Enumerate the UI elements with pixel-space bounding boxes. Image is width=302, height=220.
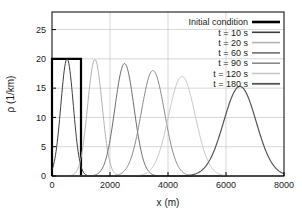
plot-canvas: 02000400060008000 0510152025 x (m) ρ (1/… — [0, 0, 302, 220]
x-tick-label: 8000 — [274, 180, 294, 190]
y-tick-label: 5 — [41, 142, 46, 152]
legend-label-3: t = 60 s — [218, 48, 248, 58]
x-tick-label: 0 — [49, 180, 54, 190]
legend-label-1: t = 10 s — [218, 28, 248, 38]
legend-label-5: t = 120 s — [213, 69, 248, 79]
y-tick-label: 15 — [36, 83, 46, 93]
x-tick-label: 4000 — [158, 180, 178, 190]
x-tick-label: 6000 — [216, 180, 236, 190]
legend-label-2: t = 20 s — [218, 38, 248, 48]
legend-label-4: t = 90 s — [218, 58, 248, 68]
x-tick-label: 2000 — [100, 180, 120, 190]
chart-figure: 02000400060008000 0510152025 x (m) ρ (1/… — [0, 0, 302, 220]
legend-label-0: Initial condition — [188, 17, 248, 27]
y-tick-label: 25 — [36, 25, 46, 35]
legend-label-6: t = 180 s — [213, 79, 248, 89]
y-tick-label: 0 — [41, 171, 46, 181]
x-axis-title: x (m) — [157, 197, 180, 208]
y-tick-label: 20 — [36, 54, 46, 64]
y-axis-title: ρ (1/km) — [5, 76, 16, 113]
y-tick-label: 10 — [36, 113, 46, 123]
